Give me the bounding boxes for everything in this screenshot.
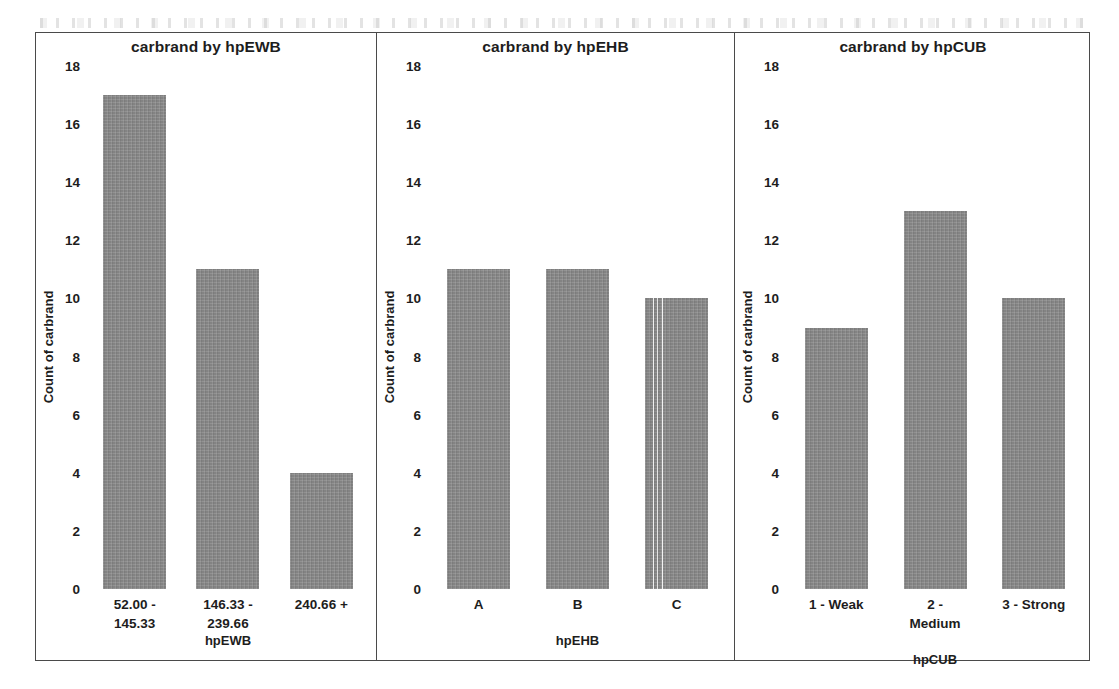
bar-group <box>787 66 1083 589</box>
y-axis-tick: 16 <box>406 117 421 132</box>
y-axis-tick: 12 <box>406 233 421 248</box>
x-axis-category-label: 3 - Strong <box>984 595 1083 614</box>
bar[interactable] <box>805 328 868 590</box>
x-axis-category-label: 146.33 -239.66 <box>181 595 274 633</box>
bar-slot <box>787 66 886 589</box>
x-axis-caption: hpCUB <box>787 652 1083 667</box>
bar-slot <box>181 66 274 589</box>
bar[interactable] <box>904 211 967 589</box>
scan-artifact <box>40 18 1090 28</box>
x-axis-category-label: 240.66 + <box>275 595 368 614</box>
panel-title: carbrand by hpCUB <box>735 38 1091 56</box>
panel-hpcub: carbrand by hpCUB Count of carbrand 1816… <box>734 33 1091 660</box>
bar-slot <box>429 66 528 589</box>
x-axis-category-label: 1 - Weak <box>787 595 886 614</box>
y-axis-tick: 6 <box>413 407 421 422</box>
y-axis-tick: 16 <box>764 117 779 132</box>
y-axis-tick: 8 <box>771 349 779 364</box>
y-axis-tick: 12 <box>764 233 779 248</box>
x-axis-category-labels: ABC <box>429 595 726 614</box>
x-axis-category-label: 2 -Medium <box>886 595 985 633</box>
x-axis-category-label: 52.00 -145.33 <box>88 595 181 633</box>
y-axis-tick-labels: 181614121086420 <box>745 66 779 589</box>
x-axis-category-labels: 1 - Weak2 -Medium3 - Strong <box>787 595 1083 633</box>
y-axis-tick: 14 <box>65 175 80 190</box>
y-axis-tick: 14 <box>764 175 779 190</box>
y-axis-tick: 14 <box>406 175 421 190</box>
y-axis-tick: 18 <box>764 59 779 74</box>
x-axis-category-label-line: 239.66 <box>181 614 274 633</box>
plot-area: 181614121086420 <box>88 66 368 589</box>
y-axis-tick: 4 <box>771 465 779 480</box>
y-axis-tick: 10 <box>65 291 80 306</box>
y-axis-tick: 4 <box>413 465 421 480</box>
y-axis-tick: 10 <box>406 291 421 306</box>
bar[interactable] <box>546 269 609 589</box>
y-axis-tick-labels: 181614121086420 <box>387 66 421 589</box>
bar-slot <box>886 66 985 589</box>
bar-slot <box>627 66 726 589</box>
x-axis-category-label-line: 2 - <box>886 595 985 614</box>
y-axis-tick: 8 <box>413 349 421 364</box>
bar-group <box>429 66 726 589</box>
panel-hpehb: carbrand by hpEHB Count of carbrand 1816… <box>376 33 734 660</box>
plot-area: 181614121086420 <box>429 66 726 589</box>
x-axis-category-label: C <box>627 595 726 614</box>
y-axis-tick: 2 <box>413 523 421 538</box>
bar-slot <box>984 66 1083 589</box>
x-axis-category-label-line: 145.33 <box>88 614 181 633</box>
x-axis-category-label: B <box>528 595 627 614</box>
bar[interactable] <box>196 269 259 589</box>
bar[interactable] <box>290 473 353 589</box>
y-axis-tick: 0 <box>413 582 421 597</box>
y-axis-tick: 12 <box>65 233 80 248</box>
bar[interactable] <box>447 269 510 589</box>
x-axis-category-label: A <box>429 595 528 614</box>
x-axis-category-label-line: 3 - Strong <box>984 595 1083 614</box>
y-axis-tick: 6 <box>72 407 80 422</box>
bar-slot <box>275 66 368 589</box>
plot-area: 181614121086420 <box>787 66 1083 589</box>
x-axis-category-label-line: A <box>429 595 528 614</box>
figure-page: carbrand by hpEWB Count of carbrand 1816… <box>0 0 1119 689</box>
x-axis-caption: hpEWB <box>88 633 368 648</box>
bar-group <box>88 66 368 589</box>
y-axis-tick: 0 <box>771 582 779 597</box>
x-axis-category-label-line: Medium <box>886 614 985 633</box>
y-axis-tick: 2 <box>72 523 80 538</box>
y-axis-tick: 0 <box>72 582 80 597</box>
x-axis-category-label-line: 240.66 + <box>275 595 368 614</box>
three-panel-bar-chart-figure: carbrand by hpEWB Count of carbrand 1816… <box>35 32 1090 661</box>
y-axis-tick: 18 <box>65 59 80 74</box>
y-axis-tick: 4 <box>72 465 80 480</box>
bar[interactable] <box>645 298 708 589</box>
bar-slot <box>528 66 627 589</box>
y-axis-tick: 8 <box>72 349 80 364</box>
bar[interactable] <box>1002 298 1065 589</box>
x-axis-category-label-line: 146.33 - <box>181 595 274 614</box>
y-axis-tick: 2 <box>771 523 779 538</box>
y-axis-tick: 10 <box>764 291 779 306</box>
x-axis-category-label-line: C <box>627 595 726 614</box>
y-axis-tick: 16 <box>65 117 80 132</box>
panel-title: carbrand by hpEHB <box>377 38 734 56</box>
bar[interactable] <box>103 95 166 589</box>
x-axis-category-labels: 52.00 -145.33146.33 -239.66240.66 + <box>88 595 368 633</box>
bar-slot <box>88 66 181 589</box>
x-axis-category-label-line: 1 - Weak <box>787 595 886 614</box>
y-axis-tick-labels: 181614121086420 <box>46 66 80 589</box>
x-axis-category-label-line: B <box>528 595 627 614</box>
y-axis-tick: 18 <box>406 59 421 74</box>
y-axis-tick: 6 <box>771 407 779 422</box>
panel-title: carbrand by hpEWB <box>36 38 376 56</box>
x-axis-caption: hpEHB <box>429 633 726 648</box>
panel-hpewb: carbrand by hpEWB Count of carbrand 1816… <box>36 33 376 660</box>
x-axis-category-label-line: 52.00 - <box>88 595 181 614</box>
